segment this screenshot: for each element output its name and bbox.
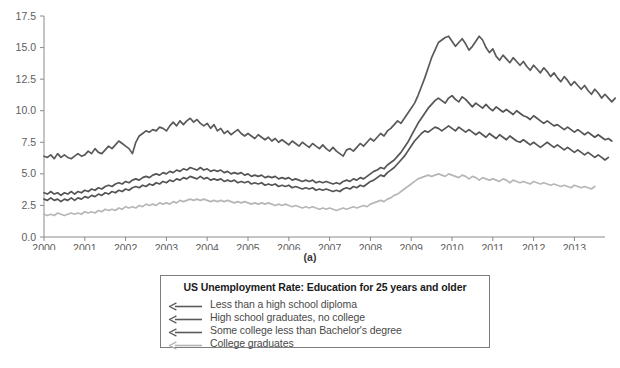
x-tick-label: 2001 [73, 242, 97, 250]
chart-axes: 0.02.55.07.510.012.515.017.5200020012002… [16, 10, 605, 250]
legend-entry-list: Less than a high school diplomaHigh scho… [161, 297, 489, 349]
y-tick-label: 17.5 [16, 10, 37, 22]
x-tick-label: 2012 [522, 242, 546, 250]
left-arrow-line-icon [168, 298, 204, 309]
y-tick-label: 0.0 [21, 231, 36, 243]
legend-entry-label: High school graduates, no college [210, 311, 365, 323]
chart-legend: US Unemployment Rate: Education for 25 y… [160, 275, 490, 348]
legend-entry-label: College graduates [210, 337, 294, 349]
series-line [44, 126, 608, 202]
x-tick-label: 2013 [563, 242, 587, 250]
chart-series-group [44, 36, 615, 215]
legend-entry-label: Some college less than Bachelor's degree [210, 324, 402, 336]
left-arrow-line-icon [168, 337, 204, 348]
x-tick-label: 2006 [277, 242, 301, 250]
legend-entry-label: Less than a high school diploma [210, 298, 357, 310]
unemployment-figure: 0.02.55.07.510.012.515.017.5200020012002… [0, 0, 620, 368]
legend-entry: High school graduates, no college [161, 310, 489, 323]
y-tick-label: 2.5 [21, 199, 36, 211]
series-line [44, 36, 615, 158]
y-tick-label: 12.5 [16, 73, 37, 85]
legend-entry: Some college less than Bachelor's degree [161, 323, 489, 336]
y-tick-label: 7.5 [21, 136, 36, 148]
legend-entry: College graduates [161, 336, 489, 349]
unemployment-line-chart: 0.02.55.07.510.012.515.017.5200020012002… [0, 0, 620, 250]
y-tick-label: 15.0 [16, 41, 37, 53]
series-line [44, 174, 595, 216]
x-tick-label: 2009 [400, 242, 424, 250]
left-arrow-line-icon [168, 324, 204, 335]
left-arrow-line-icon [168, 311, 204, 322]
x-tick-label: 2004 [196, 242, 220, 250]
legend-title: US Unemployment Rate: Education for 25 y… [161, 281, 489, 293]
y-tick-label: 5.0 [21, 167, 36, 179]
x-tick-label: 2000 [32, 242, 56, 250]
y-tick-label: 10.0 [16, 104, 37, 116]
x-tick-label: 2008 [359, 242, 383, 250]
legend-entry: Less than a high school diploma [161, 297, 489, 310]
x-tick-label: 2007 [318, 242, 342, 250]
x-tick-label: 2011 [482, 242, 505, 250]
x-tick-label: 2002 [114, 242, 138, 250]
x-tick-label: 2005 [236, 242, 260, 250]
panel-caption: (a) [0, 251, 620, 263]
x-tick-label: 2010 [440, 242, 464, 250]
series-line [44, 96, 612, 196]
x-tick-label: 2003 [155, 242, 179, 250]
